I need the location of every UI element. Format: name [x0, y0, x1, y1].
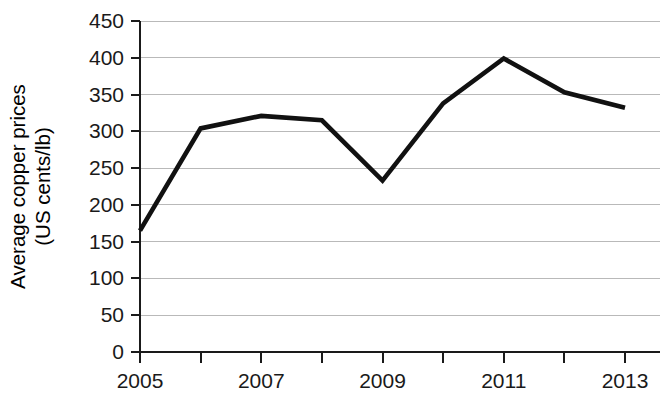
y-tick-label: 0 — [112, 340, 124, 363]
y-tick-label: 50 — [101, 303, 124, 326]
y-tick-label: 250 — [89, 156, 124, 179]
y-tick-label: 200 — [89, 193, 124, 216]
y-tick-label: 450 — [89, 9, 124, 32]
x-tick-label: 2013 — [602, 369, 649, 392]
y-tick-label: 150 — [89, 230, 124, 253]
x-tick-label: 2011 — [481, 369, 526, 392]
y-tick-label: 100 — [89, 266, 124, 289]
y-axis-tick-labels: 050100150200250300350400450 — [89, 9, 124, 363]
x-axis-ticks — [140, 352, 625, 363]
copper-price-line-chart: 050100150200250300350400450 200520072009… — [0, 0, 672, 412]
x-tick-label: 2005 — [117, 369, 164, 392]
y-axis-title-line-2: (US cents/lb) — [31, 127, 54, 245]
x-tick-label: 2007 — [238, 369, 285, 392]
y-tick-label: 350 — [89, 83, 124, 106]
gridlines — [140, 21, 660, 315]
x-axis-tick-labels: 20052007200920112013 — [117, 369, 649, 392]
y-tick-label: 300 — [89, 119, 124, 142]
y-axis-title-line-1: Average copper prices — [6, 84, 29, 289]
y-axis-ticks — [131, 21, 140, 352]
x-tick-label: 2009 — [359, 369, 406, 392]
y-axis-title: Average copper prices (US cents/lb) — [6, 84, 54, 289]
chart-canvas: 050100150200250300350400450 200520072009… — [0, 0, 672, 412]
axis-lines — [140, 21, 660, 352]
y-tick-label: 400 — [89, 46, 124, 69]
